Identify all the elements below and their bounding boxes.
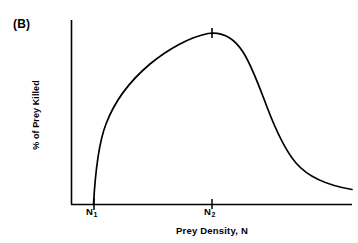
x-axis-title: Prey Density, N [122, 225, 302, 236]
x-tick-label-n2: N2 [204, 206, 215, 217]
x-tick-label-n1-subscript: 1 [93, 211, 97, 218]
response-curve [94, 33, 353, 204]
y-axis-title: % of Prey Killed [31, 60, 41, 170]
x-tick-label-n1-base: N [86, 206, 93, 217]
x-tick-label-n1: N1 [86, 206, 97, 217]
plot-area [0, 0, 358, 243]
x-tick-label-n2-subscript: 2 [211, 211, 215, 218]
x-tick-label-n2-base: N [204, 206, 211, 217]
figure-panel-b: (B) % of Prey Killed Prey Density, N N1 … [0, 0, 358, 243]
